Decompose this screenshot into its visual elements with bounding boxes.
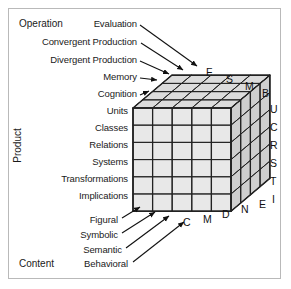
- operation-initial-convergent-production: N: [241, 203, 249, 215]
- content-label-figural: Figural: [40, 214, 118, 225]
- product-label-units: Units: [28, 105, 128, 116]
- product-label-transformations: Transformations: [18, 173, 128, 184]
- axis-title-product: Product: [12, 116, 23, 176]
- product-label-relations: Relations: [28, 139, 128, 150]
- operation-label-divergent-production: Divergent Production: [17, 54, 137, 65]
- figure-canvas: Operation Evaluation Convergent Producti…: [0, 0, 291, 289]
- content-initial-figural: F: [206, 66, 212, 78]
- content-label-semantic: Semantic: [40, 244, 122, 255]
- operation-initial-divergent-production: D: [222, 208, 230, 220]
- product-initial-classes: C: [270, 121, 278, 133]
- operation-label-memory: Memory: [37, 71, 137, 82]
- operation-initial-memory: M: [203, 213, 212, 225]
- operation-label-evaluation: Evaluation: [37, 18, 137, 29]
- operation-initial-cognition: C: [183, 216, 191, 228]
- content-label-symbolic: Symbolic: [40, 229, 118, 240]
- product-initial-transformations: T: [270, 175, 276, 187]
- content-initial-symbolic: S: [226, 73, 233, 85]
- operation-label-convergent-production: Convergent Production: [17, 36, 137, 47]
- product-initial-relations: R: [270, 139, 278, 151]
- product-label-implications: Implications: [18, 190, 128, 201]
- operation-initial-evaluation: E: [259, 198, 266, 210]
- product-initial-units: U: [270, 103, 278, 115]
- product-label-systems: Systems: [28, 156, 128, 167]
- content-label-behavioral: Behavioral: [40, 258, 128, 269]
- operation-label-cognition: Cognition: [37, 88, 137, 99]
- content-initial-semantic: M: [245, 80, 254, 92]
- product-label-classes: Classes: [28, 122, 128, 133]
- product-initial-implications: I: [272, 193, 275, 205]
- product-initial-systems: S: [270, 157, 277, 169]
- content-initial-behavioral: B: [262, 87, 269, 99]
